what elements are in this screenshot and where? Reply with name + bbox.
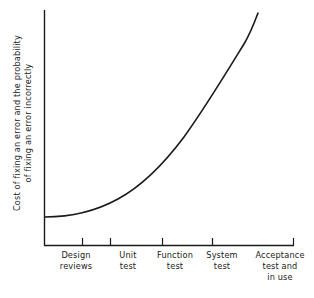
x-axis-tick-labels: Design reviews Unit test Function test S… (44, 250, 294, 296)
x-tick-label-acceptance-test: Acceptance test and in use (244, 250, 314, 283)
cost-curve-line (45, 13, 258, 217)
chart-figure: Cost of fixing an error and the probabil… (0, 0, 314, 298)
x-axis-ticks (83, 238, 294, 246)
